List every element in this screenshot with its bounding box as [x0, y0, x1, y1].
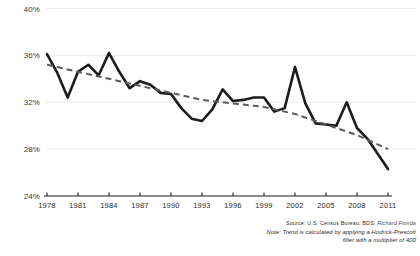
x-axis-tick-label: 1990: [162, 201, 180, 210]
y-axis-tick-label: 40%: [24, 5, 40, 14]
x-axis-tick-label: 2002: [286, 201, 304, 210]
x-axis-tick-label: 2011: [380, 201, 397, 210]
gridlines-group: 40%36%32%28%24%: [24, 5, 416, 202]
x-axis-group: 1978198119841987199019931996199920022005…: [38, 193, 396, 211]
footnote-note-line-2: filter with a multiplier of 400: [126, 236, 416, 245]
y-axis-tick-label: 32%: [24, 98, 40, 107]
data-series-path: [47, 53, 388, 169]
x-axis-tick-label: 1978: [38, 201, 56, 210]
y-axis-tick-label: 24%: [24, 192, 40, 201]
y-axis-tick-label: 28%: [24, 145, 40, 154]
x-axis-tick-label: 1984: [100, 201, 118, 210]
footnote-source-text: U.S. Census Bureau; BDS;: [307, 220, 375, 226]
x-axis-tick-label: 1996: [224, 201, 242, 210]
x-axis-tick-label: 2005: [317, 201, 335, 210]
chart-container: 40%36%32%28%24%1978198119841987199019931…: [0, 0, 420, 256]
x-axis-tick-label: 1981: [69, 201, 87, 210]
footnote-source-label: Source:: [286, 220, 306, 226]
chart-footnote: Source: U.S. Census Bureau; BDS; Richard…: [126, 219, 416, 245]
x-axis-tick-label: 1987: [131, 201, 149, 210]
trend-line-path: [47, 65, 388, 149]
footnote-source: Source: U.S. Census Bureau; BDS; Richard…: [126, 219, 416, 228]
footnote-source-credit: Richard Florida: [377, 220, 416, 226]
y-axis-tick-label: 36%: [24, 51, 40, 60]
line-chart: 40%36%32%28%24%1978198119841987199019931…: [0, 0, 420, 256]
x-axis-tick-label: 1993: [193, 201, 211, 210]
x-axis-tick-label: 2008: [348, 201, 366, 210]
x-axis-tick-label: 1999: [255, 201, 273, 210]
footnote-note-line-1: Note: Trend is calculated by applying a …: [126, 228, 416, 237]
